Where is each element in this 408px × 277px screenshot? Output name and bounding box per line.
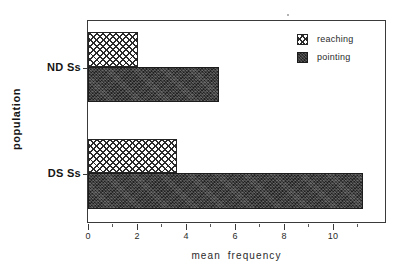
x-tick-major-4: [186, 224, 187, 230]
x-tick-label-8: 8: [274, 231, 294, 241]
x-tick-major-8: [284, 224, 285, 230]
bar-nd-ss-pointing: [88, 67, 219, 102]
x-tick-minor-5: [210, 224, 211, 227]
x-tick-label-4: 4: [176, 231, 196, 241]
legend-label-pointing: pointing: [317, 52, 351, 62]
x-axis-title: mean frequency: [87, 250, 386, 261]
bar-ds-ss-pointing: [88, 173, 363, 209]
x-tick-minor-9: [308, 224, 309, 227]
x-tick-minor-3: [161, 224, 162, 227]
legend-item-pointing: pointing: [297, 48, 381, 66]
x-tick-label-2: 2: [127, 231, 147, 241]
x-tick-major-6: [235, 224, 236, 230]
y-axis-category-labels: ND Ss DS Ss: [19, 20, 81, 223]
filled-square-icon: [297, 52, 308, 63]
x-tick-label-10: 10: [323, 231, 343, 241]
x-tick-major-10: [333, 224, 334, 230]
x-tick-minor-1: [112, 224, 113, 227]
bar-nd-ss-reaching: [88, 32, 138, 67]
hatched-square-icon: [297, 34, 308, 45]
category-label-ds-ss: DS Ss: [21, 167, 81, 179]
plot-area: reaching pointing 0 2 4 6 8 10: [87, 20, 386, 223]
x-tick-major-2: [137, 224, 138, 230]
x-tick-minor-7: [259, 224, 260, 227]
bar-ds-ss-reaching: [88, 139, 177, 173]
legend-label-reaching: reaching: [317, 34, 354, 44]
legend: reaching pointing: [297, 30, 381, 66]
x-tick-label-0: 0: [78, 231, 98, 241]
legend-item-reaching: reaching: [297, 30, 381, 48]
bar-chart-figure: population ND Ss DS Ss reaching pointing: [0, 0, 408, 277]
x-tick-label-6: 6: [225, 231, 245, 241]
category-label-nd-ss: ND Ss: [21, 61, 81, 73]
x-tick-minor-11: [357, 224, 358, 227]
x-tick-major-0: [88, 224, 89, 230]
scan-speck-artifact: [287, 14, 289, 16]
